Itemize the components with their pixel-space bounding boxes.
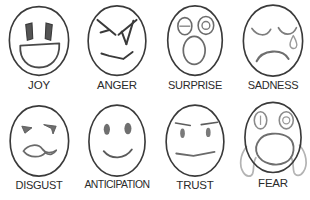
face-cell-surprise: SURPRISE (156, 0, 234, 100)
face-cell-fear: FEAR (234, 100, 310, 200)
face-label-anticipation: ANTICIPATION (84, 180, 149, 190)
face-cell-anger: ANGER (78, 0, 156, 100)
faces-grid: JOY ANGER (0, 0, 310, 199)
face-cell-sadness: SADNESS (234, 0, 310, 100)
anger-face-drawing (78, 2, 156, 80)
trust-face-drawing (156, 102, 234, 180)
joy-face-drawing (0, 2, 78, 80)
face-label-disgust: DISGUST (16, 180, 63, 191)
face-cell-joy: JOY (0, 0, 78, 100)
face-label-trust: TRUST (176, 180, 213, 192)
surprise-face-drawing (156, 2, 234, 80)
face-label-surprise: SURPRISE (168, 80, 222, 91)
face-label-anger: ANGER (97, 80, 137, 92)
sadness-face-drawing (234, 2, 310, 80)
face-cell-disgust: DISGUST (0, 100, 78, 200)
disgust-face-drawing (0, 102, 78, 180)
face-label-sadness: SADNESS (248, 80, 298, 91)
anticipation-face-drawing (78, 102, 156, 180)
face-cell-anticipation: ANTICIPATION (78, 100, 156, 200)
emotion-faces-image: JOY ANGER (0, 0, 310, 199)
face-label-joy: JOY (28, 80, 50, 92)
fear-face-drawing (234, 100, 310, 178)
face-label-fear: FEAR (258, 178, 288, 190)
face-cell-trust: TRUST (156, 100, 234, 200)
